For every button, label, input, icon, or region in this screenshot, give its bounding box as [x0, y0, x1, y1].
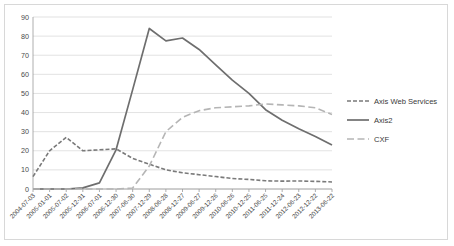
series-group	[33, 28, 332, 189]
y-axis-tick-label: 60	[21, 70, 29, 79]
legend-label-axis2: Axis2	[374, 116, 393, 125]
y-axis-tick-label: 80	[21, 32, 29, 41]
y-axis-tick-label: 10	[21, 165, 29, 174]
y-gridlines	[33, 17, 332, 189]
legend-label-axis-web-services: Axis Web Services	[374, 97, 437, 106]
x-axis-ticks: 2004-07-032005-01-012005-07-022005-12-31…	[8, 189, 335, 220]
y-axis-tick-label: 50	[21, 89, 29, 98]
y-axis-tick-label: 30	[21, 127, 29, 136]
y-axis-tick-label: 0	[25, 185, 29, 194]
y-axis-tick-label: 20	[21, 146, 29, 155]
line-chart: 01020304050607080902004-07-032005-01-012…	[0, 0, 454, 246]
legend-label-cxf: CXF	[374, 135, 390, 144]
legend: Axis Web ServicesAxis2CXF	[347, 97, 437, 144]
y-axis-tick-label: 70	[21, 51, 29, 60]
y-axis-tick-label: 90	[21, 13, 29, 22]
series-line-axis-web-services	[33, 137, 332, 182]
series-line-axis2	[33, 28, 332, 189]
chart-svg: 01020304050607080902004-07-032005-01-012…	[0, 0, 454, 246]
y-axis-tick-label: 40	[21, 108, 29, 117]
